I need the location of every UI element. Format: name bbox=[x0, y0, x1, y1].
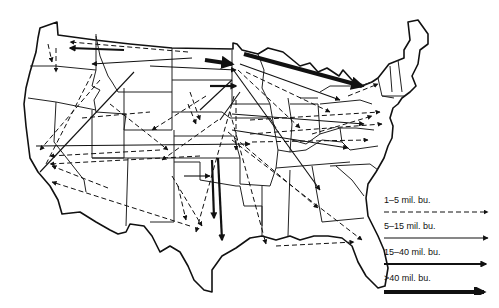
legend-item-15-40: 15–40 mil. bu. bbox=[384, 247, 496, 273]
medium-arrow-icon bbox=[384, 261, 490, 267]
legend-label: 5–15 mil. bu. bbox=[384, 221, 436, 231]
legend-label: 15–40 mil. bu. bbox=[384, 247, 441, 257]
us-outline bbox=[24, 20, 428, 292]
dashed-arrow-icon bbox=[384, 209, 490, 215]
legend: 1–5 mil. bu. 5–15 mil. bu. 15–40 mil. bu… bbox=[384, 195, 496, 299]
legend-item-1-5: 1–5 mil. bu. bbox=[384, 195, 496, 221]
legend-label: 1–5 mil. bu. bbox=[384, 195, 431, 205]
legend-item-5-15: 5–15 mil. bu. bbox=[384, 221, 496, 247]
legend-item-over-40: >40 mil. bu. bbox=[384, 273, 496, 299]
thick-arrow-icon bbox=[384, 287, 490, 295]
thin-arrow-icon bbox=[384, 235, 490, 241]
legend-label: >40 mil. bu. bbox=[384, 273, 431, 283]
